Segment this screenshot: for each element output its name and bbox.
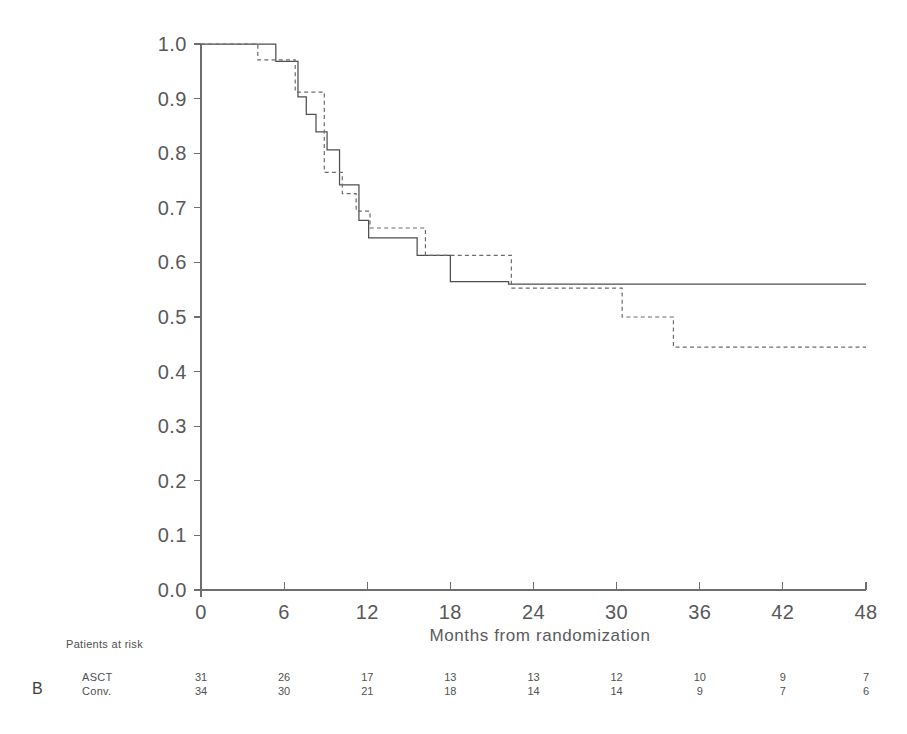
y-tick-label: 0.1	[158, 524, 187, 546]
axis-labels: 0.00.10.20.30.40.50.60.70.80.91.00612182…	[158, 33, 878, 645]
axes	[194, 44, 866, 597]
x-tick-label: 12	[356, 601, 379, 623]
x-tick-label: 30	[605, 601, 628, 623]
risk-table-header: Patients at risk	[66, 638, 143, 650]
risk-value: 14	[527, 685, 539, 697]
y-tick-label: 0.0	[158, 579, 187, 601]
risk-row-label-conv: Conv.	[82, 685, 111, 697]
x-tick-label: 6	[278, 601, 290, 623]
risk-value: 14	[611, 685, 623, 697]
y-tick-label: 1.0	[158, 33, 187, 55]
risk-value: 13	[444, 671, 456, 683]
x-tick-label: 0	[195, 601, 207, 623]
risk-table: Patients at riskASCT3126171313121097Conv…	[32, 638, 869, 697]
risk-value: 18	[444, 685, 456, 697]
y-tick-label: 0.6	[158, 251, 187, 273]
risk-value: 7	[780, 685, 786, 697]
risk-value: 31	[195, 671, 207, 683]
risk-value: 26	[278, 671, 290, 683]
risk-row-label-asct: ASCT	[82, 671, 113, 683]
x-axis-title: Months from randomization	[430, 626, 651, 645]
y-tick-label: 0.5	[158, 306, 187, 328]
risk-value: 6	[863, 685, 869, 697]
risk-value: 30	[278, 685, 290, 697]
km-survival-figure: 0.00.10.20.30.40.50.60.70.80.91.00612182…	[0, 0, 907, 734]
curve-conv	[201, 44, 866, 347]
y-tick-label: 0.7	[158, 197, 187, 219]
x-tick-label: 24	[522, 601, 545, 623]
risk-value: 9	[697, 685, 703, 697]
risk-value: 9	[780, 671, 786, 683]
x-tick-label: 48	[854, 601, 877, 623]
y-tick-label: 0.2	[158, 470, 187, 492]
risk-value: 12	[611, 671, 623, 683]
risk-value: 13	[527, 671, 539, 683]
y-tick-label: 0.8	[158, 142, 187, 164]
y-tick-label: 0.4	[158, 361, 187, 383]
risk-value: 10	[694, 671, 706, 683]
risk-value: 17	[361, 671, 373, 683]
survival-curves	[201, 44, 866, 347]
risk-value: 34	[195, 685, 207, 697]
risk-value: 7	[863, 671, 869, 683]
km-plot-svg: 0.00.10.20.30.40.50.60.70.80.91.00612182…	[0, 0, 907, 734]
x-tick-label: 18	[439, 601, 462, 623]
risk-value: 21	[361, 685, 373, 697]
x-tick-label: 42	[771, 601, 794, 623]
y-tick-label: 0.3	[158, 415, 187, 437]
panel-label: B	[32, 680, 43, 697]
x-tick-label: 36	[688, 601, 711, 623]
curve-asct	[201, 44, 866, 284]
y-tick-label: 0.9	[158, 88, 187, 110]
